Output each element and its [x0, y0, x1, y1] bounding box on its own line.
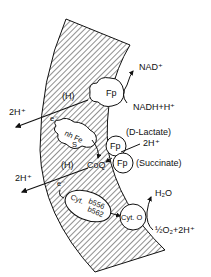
- coq-label: CoQ: [87, 160, 106, 170]
- h-mid-label: (H): [61, 160, 74, 170]
- s-label: S: [72, 140, 77, 149]
- fp-succinate-complex: Fp: [113, 153, 133, 173]
- fp-succinate-label: Fp: [117, 158, 128, 168]
- d-lactate-label: (D-Lactate): [126, 127, 171, 137]
- respiratory-chain-diagram: Fp NAD⁺ NADH+H⁺ (H) 2H⁺ e⁻ nh Fe S Fp (D…: [0, 0, 211, 277]
- cytochrome-o-complex: Cyt. O: [120, 204, 146, 230]
- two-h-top-label: 2H⁺: [9, 107, 26, 117]
- nadh-arrow: [124, 71, 134, 103]
- nad-plus-label: NAD⁺: [139, 62, 163, 72]
- fp-lactate-label: Fp: [110, 141, 121, 151]
- nadh-label: NADH+H⁺: [133, 102, 175, 112]
- fp-top-label: Fp: [106, 88, 117, 98]
- succinate-label: (Succinate): [136, 158, 182, 168]
- h2o-label: H₂O: [155, 188, 172, 198]
- cyt-o-label: Cyt. O: [121, 213, 142, 222]
- oxygen-arrow: [147, 197, 153, 230]
- two-h-left-label: 2H⁺: [15, 173, 32, 183]
- h-top-label: (H): [62, 91, 75, 101]
- e-mid-label: e⁻: [57, 179, 65, 188]
- o2-label: ½O₂+2H⁺: [155, 225, 195, 235]
- two-h-mid-label: 2H⁺: [143, 138, 160, 148]
